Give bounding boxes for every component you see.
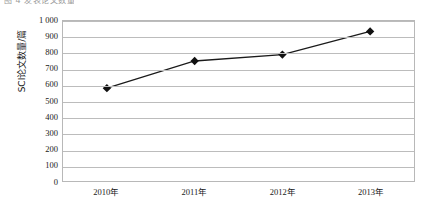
y-axis-tick-labels: 1 0009008007006005004003002001000 bbox=[20, 20, 58, 182]
y-axis-tick-label: 500 bbox=[20, 97, 58, 106]
x-axis-tick-label: 2010年 bbox=[66, 186, 146, 198]
gridline bbox=[63, 151, 414, 152]
line-chart: SCI论文数量/篇 1 0009008007006005004003002001… bbox=[0, 0, 430, 214]
y-axis-tick-label: 0 bbox=[20, 178, 58, 187]
x-axis-tick-label: 2013年 bbox=[331, 186, 411, 198]
gridline bbox=[63, 21, 414, 22]
gridline bbox=[63, 53, 414, 54]
y-axis-tick-label: 600 bbox=[20, 80, 58, 89]
y-axis-tick-label: 900 bbox=[20, 32, 58, 41]
y-axis-tick-label: 100 bbox=[20, 161, 58, 170]
y-axis-tick-label: 200 bbox=[20, 145, 58, 154]
y-axis-tick-label: 1 000 bbox=[20, 16, 58, 25]
y-axis-tick-label: 300 bbox=[20, 129, 58, 138]
gridline bbox=[63, 86, 414, 87]
gridline bbox=[63, 118, 414, 119]
plot-area bbox=[62, 20, 415, 182]
data-point-marker bbox=[278, 50, 286, 58]
x-axis-tick-label: 2012年 bbox=[243, 186, 323, 198]
y-axis-tick-label: 400 bbox=[20, 113, 58, 122]
gridline bbox=[63, 134, 414, 135]
x-axis-tick-label: 2011年 bbox=[154, 186, 234, 198]
gridline bbox=[63, 70, 414, 71]
data-point-marker bbox=[366, 27, 374, 35]
gridline bbox=[63, 167, 414, 168]
series-line-2010-2013 bbox=[63, 21, 414, 181]
x-axis-tick-labels: 2010年2011年2012年2013年 bbox=[62, 186, 415, 202]
gridline bbox=[63, 102, 414, 103]
series-line bbox=[107, 31, 370, 88]
data-point-marker bbox=[190, 57, 198, 65]
gridline bbox=[63, 37, 414, 38]
y-axis-tick-label: 800 bbox=[20, 48, 58, 57]
y-axis-tick-label: 700 bbox=[20, 64, 58, 73]
